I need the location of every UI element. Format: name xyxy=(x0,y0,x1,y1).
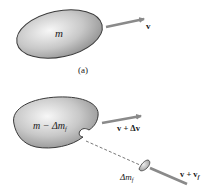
fragment-velocity-label-text: v + v xyxy=(180,169,198,179)
velocity-arrow-body xyxy=(102,116,141,123)
diagram-canvas xyxy=(0,0,208,186)
fragment-mass-label-subscript: f xyxy=(132,177,134,183)
panel-a xyxy=(12,2,144,65)
fragment-mass-label: Δmf xyxy=(120,173,133,183)
velocity-label: v xyxy=(146,22,151,31)
remaining-mass-label-subscript: f xyxy=(65,126,67,132)
fragment-mass xyxy=(139,160,150,171)
remaining-mass-label: m − Δmf xyxy=(33,121,67,132)
fragment-velocity-label: v + vf xyxy=(180,170,200,180)
mass-label: m xyxy=(55,28,63,39)
panel-b xyxy=(14,97,187,184)
fragment-mass-label-text: Δm xyxy=(120,172,132,182)
separation-dashed-line xyxy=(86,141,140,165)
panel-a-caption: (a) xyxy=(78,66,88,75)
remaining-mass-label-text: m − Δm xyxy=(33,120,65,131)
body-velocity-label: v + Δv xyxy=(117,124,140,133)
velocity-arrow xyxy=(106,19,144,27)
fragment-velocity-label-subscript: f xyxy=(198,174,200,180)
